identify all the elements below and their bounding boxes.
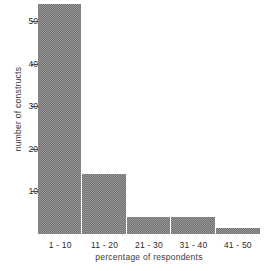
x-axis-tick-label: 21 - 30 (127, 238, 171, 252)
x-axis-tick-label: 1 - 10 (38, 238, 82, 252)
y-axis-tick-mark (31, 149, 38, 150)
x-axis-title: percentage of respondents (38, 252, 260, 262)
bar (127, 217, 171, 234)
plot-area (38, 0, 260, 234)
x-axis-tick-label: 11 - 20 (82, 238, 126, 252)
y-axis-tick-mark (31, 21, 38, 22)
y-axis-tick-mark (31, 64, 38, 65)
bar (38, 4, 82, 234)
x-axis-tick-labels: 1 - 1011 - 2021 - 3031 - 4041 - 50 (38, 238, 260, 252)
x-axis-tick-label: 41 - 50 (216, 238, 260, 252)
y-axis-tick-mark (31, 106, 38, 107)
histogram-figure: number of constructs 1020304050 1 - 1011… (0, 0, 264, 271)
bar (171, 217, 215, 234)
y-axis-tick-mark (31, 191, 38, 192)
x-axis-tick-label: 31 - 40 (171, 238, 215, 252)
bar (216, 228, 260, 234)
bar (82, 174, 126, 234)
